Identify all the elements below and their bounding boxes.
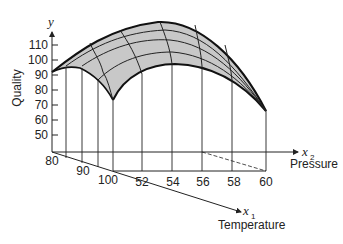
svg-text:90: 90 (35, 68, 49, 82)
x2-axis-label: Pressure (290, 157, 338, 171)
svg-text:100: 100 (98, 173, 118, 187)
svg-text:56: 56 (196, 175, 210, 189)
svg-text:58: 58 (227, 175, 241, 189)
svg-text:90: 90 (76, 164, 90, 178)
response-surface-figure: y 110 100 90 80 70 60 50 Quality x 2 Pre… (0, 0, 343, 244)
svg-text:80: 80 (45, 154, 59, 168)
y-axis-symbol: y (46, 14, 54, 29)
surface-plot: y 110 100 90 80 70 60 50 Quality x 2 Pre… (0, 0, 343, 244)
svg-text:70: 70 (35, 98, 49, 112)
svg-text:50: 50 (35, 128, 49, 142)
x1-axis (52, 152, 241, 212)
x2-axis-ticks: 52 54 56 58 60 (135, 175, 273, 189)
x1-axis-symbol: x (242, 203, 249, 218)
svg-text:54: 54 (166, 175, 180, 189)
x1-axis-label: Temperature (218, 218, 286, 232)
y-axis-ticks: 110 100 90 80 70 60 50 (28, 38, 48, 142)
svg-text:80: 80 (35, 83, 49, 97)
svg-text:110: 110 (29, 38, 48, 52)
svg-text:60: 60 (35, 113, 49, 127)
y-axis-label: Quality (10, 69, 24, 106)
svg-text:60: 60 (259, 175, 273, 189)
svg-text:100: 100 (28, 53, 48, 67)
